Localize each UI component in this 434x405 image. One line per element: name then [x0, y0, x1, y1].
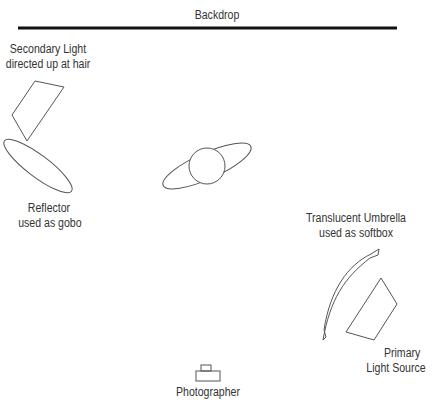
- umbrella-line2: used as softbox: [305, 226, 407, 241]
- primary-line2: Light Source: [363, 361, 430, 376]
- umbrella-line1: Translucent Umbrella: [305, 211, 407, 226]
- camera-top: [201, 365, 211, 371]
- subject-circle: [189, 148, 225, 184]
- reflector-label: Reflector used as gobo: [18, 201, 80, 231]
- primary-light-shape: [346, 278, 397, 340]
- camera-body: [196, 371, 220, 381]
- secondary-line1: Secondary Light: [6, 42, 90, 57]
- lighting-diagram: Backdrop Secondary Light directed up at …: [0, 0, 434, 405]
- umbrella-label: Translucent Umbrella used as softbox: [305, 211, 407, 241]
- primary-light-label: Primary Light Source: [363, 346, 430, 376]
- reflector-line1: Reflector: [18, 201, 80, 216]
- secondary-line2: directed up at hair: [6, 57, 90, 72]
- reflector-line2: used as gobo: [18, 216, 80, 231]
- secondary-light-label: Secondary Light directed up at hair: [6, 42, 90, 72]
- primary-line1: Primary: [363, 346, 430, 361]
- photographer-label: Photographer: [173, 385, 243, 400]
- backdrop-label: Backdrop: [184, 8, 249, 23]
- secondary-light-shape: [12, 81, 64, 141]
- reflector-shape: [0, 132, 78, 200]
